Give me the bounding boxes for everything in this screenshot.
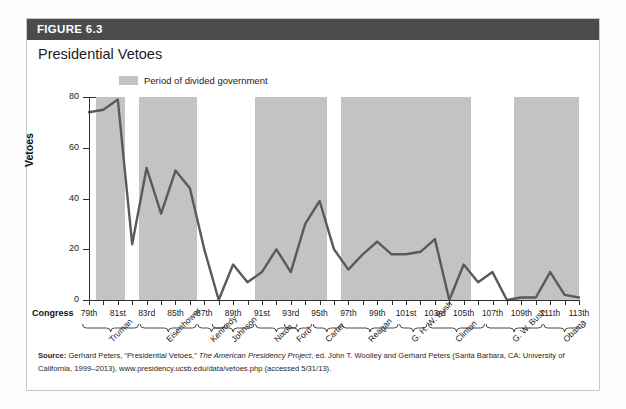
president-label: Truman xyxy=(107,317,135,345)
president-label: Clinton xyxy=(453,318,479,344)
x-axis-tick xyxy=(89,300,90,305)
x-axis-tick xyxy=(118,300,119,305)
y-axis-tick-label: 0 xyxy=(49,294,79,304)
plot-area xyxy=(89,97,579,300)
source-italic-title: The American Presidency Project xyxy=(199,351,311,360)
president-label: Reagan xyxy=(366,316,394,344)
vetoes-line-series xyxy=(89,97,579,300)
x-axis-tick xyxy=(305,300,306,305)
x-axis-tick xyxy=(406,300,407,305)
y-axis-tick-label: 40 xyxy=(49,193,79,203)
x-axis-tick xyxy=(392,300,393,305)
source-text-before: Gerhard Peters, “Presidential Vetoes,” xyxy=(66,351,199,360)
source-note: Source: Gerhard Peters, “Presidential Ve… xyxy=(38,349,588,375)
president-label: Nixon xyxy=(272,322,294,344)
x-axis-tick xyxy=(103,300,104,305)
x-axis-tick xyxy=(233,300,234,305)
chart-plot: 020406080 Vetoes Congress 79th81st83rd85… xyxy=(27,19,601,392)
president-label: Obama xyxy=(561,317,588,344)
x-axis-tick xyxy=(276,300,277,305)
vetoes-line xyxy=(89,100,579,301)
y-axis-tick-label: 80 xyxy=(49,91,79,101)
x-axis-tick xyxy=(320,300,321,305)
y-axis-top-cap xyxy=(89,97,96,98)
x-axis-tick xyxy=(190,300,191,305)
x-axis-tick xyxy=(536,300,537,305)
president-label: G. H. W. Bush xyxy=(409,299,454,344)
x-axis-tick xyxy=(248,300,249,305)
x-axis-tick xyxy=(219,300,220,305)
x-axis-title: Congress xyxy=(32,308,74,318)
x-axis-tick xyxy=(521,300,522,305)
x-axis-tick xyxy=(493,300,494,305)
x-axis-tick xyxy=(204,300,205,305)
y-axis-line xyxy=(89,97,90,300)
x-axis-tick xyxy=(420,300,421,305)
x-axis-tick xyxy=(435,300,436,305)
y-axis-title: Vetoes xyxy=(23,133,35,167)
x-axis-tick xyxy=(262,300,263,305)
x-axis-tick xyxy=(161,300,162,305)
y-axis-tick-label: 60 xyxy=(49,142,79,152)
x-axis-tick xyxy=(147,300,148,305)
president-label: Carter xyxy=(323,320,347,344)
x-axis-tick xyxy=(377,300,378,305)
figure-card: FIGURE 6.3 Presidential Vetoes Period of… xyxy=(26,18,600,391)
x-axis-tick xyxy=(478,300,479,305)
x-axis-tick xyxy=(363,300,364,305)
source-label: Source: xyxy=(38,351,66,360)
x-axis-tick xyxy=(507,300,508,305)
x-axis-tick xyxy=(565,300,566,305)
y-axis-tick-label: 20 xyxy=(49,243,79,253)
x-axis-tick xyxy=(550,300,551,305)
x-axis-tick xyxy=(348,300,349,305)
x-axis-tick xyxy=(291,300,292,305)
x-axis-tick xyxy=(464,300,465,305)
x-axis-tick xyxy=(334,300,335,305)
president-label: Ford xyxy=(294,325,313,344)
congress-tick-label: 113th xyxy=(562,308,596,318)
x-axis-tick xyxy=(132,300,133,305)
x-axis-tick xyxy=(175,300,176,305)
x-axis-tick xyxy=(579,300,580,305)
